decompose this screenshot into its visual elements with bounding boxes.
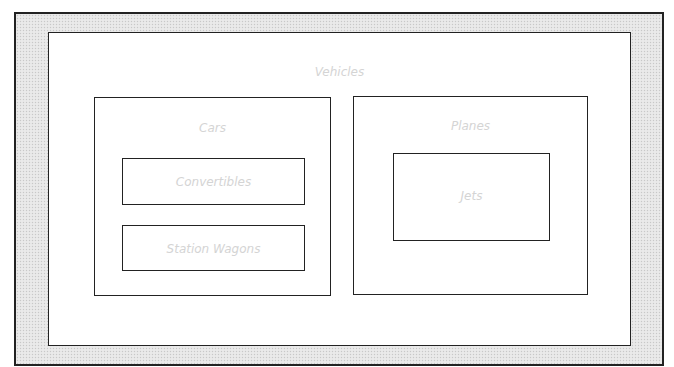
jets-container: Jets bbox=[393, 153, 550, 241]
convertibles-container: Convertibles bbox=[122, 158, 305, 205]
convertibles-label: Convertibles bbox=[123, 175, 304, 189]
planes-label: Planes bbox=[354, 119, 587, 133]
jets-label: Jets bbox=[394, 189, 549, 203]
station-wagons-container: Station Wagons bbox=[122, 225, 305, 271]
station-wagons-label: Station Wagons bbox=[123, 242, 304, 256]
vehicles-label: Vehicles bbox=[49, 65, 630, 79]
cars-label: Cars bbox=[95, 121, 330, 135]
